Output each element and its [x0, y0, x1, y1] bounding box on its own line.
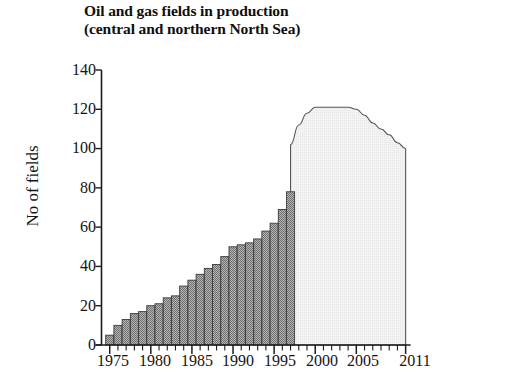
plot-area: [0, 0, 513, 382]
bar: [106, 335, 114, 345]
bar: [287, 192, 295, 345]
bar: [171, 296, 179, 345]
chart-container: Oil and gas fields in production (centra…: [0, 0, 513, 382]
bar: [262, 231, 270, 345]
bar: [180, 286, 188, 345]
bar: [139, 312, 147, 345]
bar: [278, 209, 286, 345]
bar: [130, 314, 138, 345]
bar: [245, 243, 253, 345]
bar: [254, 239, 262, 345]
bar: [270, 223, 278, 345]
projection-area: [291, 107, 406, 345]
projection-curve: [291, 107, 406, 345]
bar: [204, 268, 212, 345]
bar: [196, 274, 204, 345]
bar: [114, 325, 122, 345]
bar: [163, 298, 171, 345]
bar: [237, 245, 245, 345]
bar: [122, 319, 130, 345]
bar-series: [106, 192, 295, 345]
bar: [147, 306, 155, 345]
bar: [229, 247, 237, 345]
bar: [221, 257, 229, 345]
bar: [155, 304, 163, 345]
bar: [188, 280, 196, 345]
bar: [213, 264, 221, 345]
